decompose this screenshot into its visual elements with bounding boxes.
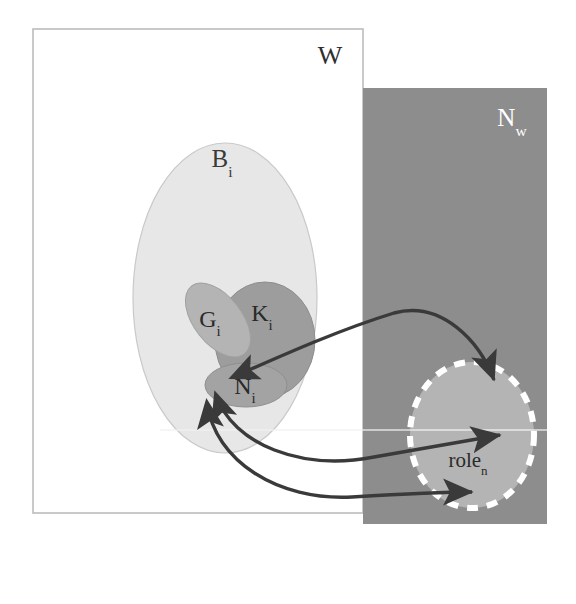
diagram-canvas: W Nw Bi Ki Gi Ni rolen xyxy=(0,0,576,604)
set-diagram: W Nw Bi Ki Gi Ni rolen xyxy=(0,0,576,604)
world-label: W xyxy=(318,41,343,70)
rolen-ellipse xyxy=(410,362,534,508)
